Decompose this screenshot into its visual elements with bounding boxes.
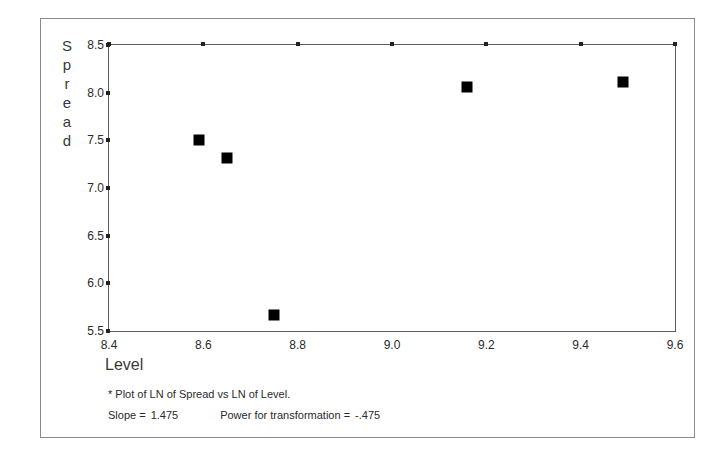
power-value: -.475 [350,409,380,421]
x-tick-label: 8.8 [289,338,306,352]
slope-label: Slope = [108,409,146,421]
y-tick-label: 8.0 [87,86,104,100]
y-axis-title: S p r e a d [58,36,76,150]
x-tick-label: 9.2 [478,338,495,352]
y-tick-label: 8.5 [87,38,104,52]
y-tick-mark [106,186,110,190]
x-tick-label: 8.6 [195,338,212,352]
y-tick-label: 5.5 [87,324,104,338]
x-tick-mark [107,42,111,46]
y-axis-title-letter: S [58,36,76,55]
x-tick-mark [201,42,205,46]
slope-value: 1.475 [146,409,179,421]
y-axis-title-letter: p [58,55,76,74]
y-tick-label: 7.5 [87,133,104,147]
footnote-stats: Slope =1.475Power for transformation =-.… [108,409,380,421]
y-axis-title-letter: e [58,93,76,112]
x-tick-label: 8.4 [101,338,118,352]
x-tick-mark [579,42,583,46]
y-axis-title-letter: d [58,131,76,150]
x-axis-title: Level [105,356,143,374]
scatter-plot-area: 5.56.06.57.07.58.08.5 8.48.68.89.09.29.4… [108,44,676,332]
power-label: Power for transformation = [220,409,350,421]
y-tick-label: 6.0 [87,276,104,290]
footnote-note: * Plot of LN of Spread vs LN of Level. [108,388,380,400]
y-axis-title-letter: r [58,74,76,93]
y-tick-mark [106,329,110,333]
y-tick-label: 6.5 [87,229,104,243]
x-tick-label: 9.4 [572,338,589,352]
x-tick-mark [673,42,677,46]
data-point-marker [221,153,232,164]
data-point-marker [193,135,204,146]
y-tick-mark [106,234,110,238]
y-tick-mark [106,91,110,95]
x-tick-mark [296,42,300,46]
x-tick-label: 9.6 [667,338,684,352]
data-point-marker [618,77,629,88]
x-tick-label: 9.0 [384,338,401,352]
y-tick-label: 7.0 [87,181,104,195]
x-tick-mark [484,42,488,46]
data-point-marker [462,81,473,92]
y-tick-mark [106,281,110,285]
y-tick-mark [106,138,110,142]
footnote-block: * Plot of LN of Spread vs LN of Level. S… [108,388,380,421]
x-tick-mark [390,42,394,46]
y-axis-title-letter: a [58,112,76,131]
data-point-marker [269,309,280,320]
